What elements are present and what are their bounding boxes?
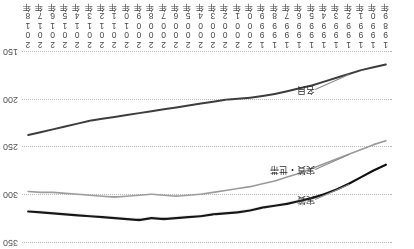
x-axis-tick-label: 1999年 <box>258 4 267 51</box>
x-axis-tick-label: 2008年 <box>147 4 156 51</box>
x-axis-tick-label: 2010年 <box>123 4 132 51</box>
x-axis-tick-label: 1991年 <box>357 4 366 51</box>
x-axis-tick-label: 2006年 <box>172 4 181 51</box>
x-axis-tick-label: 2000年 <box>246 4 255 51</box>
series-line-1 <box>28 141 386 197</box>
x-axis-tick-label: 2012年 <box>98 4 107 51</box>
x-axis-tick-label: 1992年 <box>345 4 354 51</box>
x-axis-tick-label: 1993年 <box>332 4 341 51</box>
x-axis-tick-label: 1998年 <box>271 4 280 51</box>
y-axis-tick-label: 200 <box>3 95 18 104</box>
x-axis-tick-label: 1994年 <box>320 4 329 51</box>
x-axis-tick-label: 2017年 <box>36 4 45 51</box>
plot-area: 150200250300350 名目 実質・世帯 実質 <box>22 52 392 243</box>
x-axis-tick-label: 2003年 <box>209 4 218 51</box>
x-axis-tick-label: 2016年 <box>49 4 58 51</box>
x-axis-tick-label: 2011年 <box>110 4 119 51</box>
y-axis-tick-label: 250 <box>3 143 18 152</box>
series-label-real: 実質 <box>297 195 315 204</box>
x-axis-tick-label: 2014年 <box>73 4 82 51</box>
x-axis-tick-label: 1997年 <box>283 4 292 51</box>
series-lines <box>22 52 392 243</box>
y-axis-tick-label: 300 <box>3 191 18 200</box>
y-axis-tick-label: 150 <box>3 48 18 57</box>
x-axis-tick-label: 2005年 <box>184 4 193 51</box>
series-line-0 <box>28 64 386 135</box>
x-axis-tick-label: 1990年 <box>369 4 378 51</box>
x-axis-tick-label: 1996年 <box>295 4 304 51</box>
x-axis-tick-label: 2001年 <box>234 4 243 51</box>
series-label-nominal: 名目 <box>297 85 315 94</box>
x-axis-tick-label: 1995年 <box>308 4 317 51</box>
x-axis-tick-label: 2002年 <box>221 4 230 51</box>
x-axis-tick-label: 2007年 <box>160 4 169 51</box>
x-axis-tick-label: 2009年 <box>135 4 144 51</box>
y-axis-tick-label: 350 <box>3 239 18 248</box>
series-label-real-household: 実質・世帯 <box>270 165 315 174</box>
x-axis-tick-label: 2015年 <box>61 4 70 51</box>
x-axis-tick-label: 2018年 <box>24 4 33 51</box>
x-axis-tick-label: 1989年 <box>382 4 391 51</box>
x-axis-tick-labels: 1989年1990年1991年1992年1993年1994年1995年1996年… <box>22 0 392 52</box>
x-axis-tick-label: 2013年 <box>86 4 95 51</box>
x-axis-tick-label: 2004年 <box>197 4 206 51</box>
